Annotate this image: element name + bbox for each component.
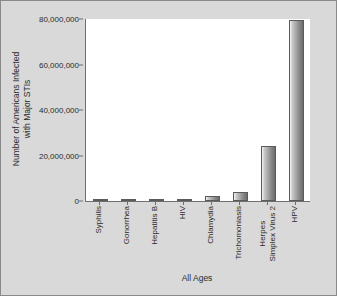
y-tick-mark [79, 64, 83, 65]
x-tick-label-line: HIV [178, 206, 187, 219]
x-tick-label: Chlamydia [206, 206, 216, 244]
bar-slot [254, 19, 282, 201]
chart-figure: Number of Americans Infected with Major … [0, 0, 337, 296]
bar [289, 20, 304, 201]
x-label-slot: HPV [281, 206, 309, 268]
y-axis-title: Number of Americans Infected with Major … [9, 19, 33, 199]
bar-slot [142, 19, 170, 201]
x-axis-category-labels: SyphilisGonorrheaHepatitis BHIVChlamydia… [85, 206, 309, 268]
x-tick-label: Trichomoniasis [234, 206, 244, 260]
x-label-slot: Hepatitis B [141, 206, 169, 268]
y-tick-mark [79, 110, 83, 111]
x-label-slot: Trichomoniasis [225, 206, 253, 268]
y-axis-tick-labels: 020,000,00040,000,00060,000,00080,000,00… [31, 15, 83, 201]
y-axis-title-line2: with Major STIs [21, 52, 32, 166]
bar-slot [226, 19, 254, 201]
x-axis-title: All Ages [85, 273, 309, 283]
bar-slot [198, 19, 226, 201]
y-tick-mark [79, 19, 83, 20]
y-tick-label: 60,000,000 [39, 60, 79, 69]
y-tick-mark [79, 155, 83, 156]
x-tick-label-line: Simplex Virus 2 [267, 206, 277, 261]
plot-area [85, 19, 310, 202]
x-label-slot: Syphilis [85, 206, 113, 268]
x-label-slot: Gonorrhea [113, 206, 141, 268]
x-tick-label: Hepatitis B [150, 206, 160, 245]
x-label-slot: HIV [169, 206, 197, 268]
y-tick-mark [79, 201, 83, 202]
x-tick-label: Syphilis [94, 206, 104, 234]
y-tick-label: 40,000,000 [39, 106, 79, 115]
x-tick-label-line: Chlamydia [206, 206, 215, 244]
x-tick-label: HPV [290, 206, 300, 222]
bar-slot [86, 19, 114, 201]
x-tick-label: Gonorrhea [122, 206, 132, 244]
y-axis-title-line1: Number of Americans Infected [11, 52, 21, 166]
x-tick-label-line: Trichomoniasis [234, 206, 243, 260]
x-tick-label-line: Hepatitis B [150, 206, 159, 245]
bar-series [86, 19, 310, 201]
x-tick-label-line: Syphilis [94, 206, 103, 234]
x-label-slot: Chlamydia [197, 206, 225, 268]
bar [261, 146, 276, 201]
y-tick-label: 80,000,000 [39, 15, 79, 24]
x-tick-label-line: Gonorrhea [122, 206, 131, 244]
bar-slot [282, 19, 310, 201]
x-tick-label-line: HPV [290, 206, 299, 222]
x-tick-label: HIV [178, 206, 188, 219]
x-tick-label-line: Herpes [258, 221, 267, 247]
x-tick-label: HerpesSimplex Virus 2 [258, 206, 277, 261]
x-label-slot: HerpesSimplex Virus 2 [253, 206, 281, 268]
bar-slot [170, 19, 198, 201]
y-tick-label: 20,000,000 [39, 151, 79, 160]
bar [233, 192, 248, 201]
bar-slot [114, 19, 142, 201]
